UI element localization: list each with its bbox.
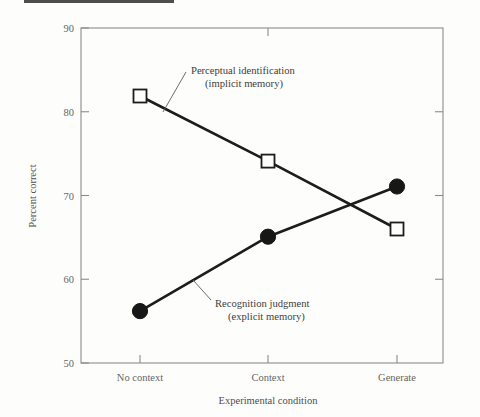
leader-line-explicit [193,280,211,300]
data-point-explicit-context [260,229,275,244]
x-axis-title: Experimental condition [219,395,319,406]
data-point-implicit-no-context [134,90,147,103]
y-tick-label-60: 60 [64,274,75,285]
chart-page: 90 80 70 60 50 No context Context Genera… [0,0,480,417]
x-tick-label-context: Context [251,372,284,383]
x-axis-ticks [140,355,397,363]
y-tick-label-70: 70 [64,191,75,202]
leader-line-implicit [163,72,186,112]
annotation-implicit-line2: (implicit memory) [205,78,283,90]
line-chart: 90 80 70 60 50 No context Context Genera… [0,0,480,417]
annotation-implicit-memory: Perceptual identification (implicit memo… [163,65,296,112]
annotation-explicit-memory: Recognition judgment (explicit memory) [193,280,310,323]
annotation-explicit-line1: Recognition judgment [215,298,310,309]
y-tick-label-90: 90 [64,23,75,34]
data-point-explicit-no-context [132,304,147,319]
annotation-implicit-line1: Perceptual identification [191,65,296,76]
data-point-implicit-context [262,155,275,168]
x-tick-label-generate: Generate [378,372,416,383]
y-tick-label-50: 50 [64,358,75,369]
y-axis-title: Percent correct [27,164,38,227]
y-tick-label-80: 80 [64,107,75,118]
series-perceptual-identification [134,90,404,236]
data-point-explicit-generate [389,179,404,194]
annotation-explicit-line2: (explicit memory) [228,311,305,323]
data-point-implicit-generate [391,223,404,236]
x-tick-label-no-context: No context [117,372,163,383]
series-line-explicit [140,187,397,312]
